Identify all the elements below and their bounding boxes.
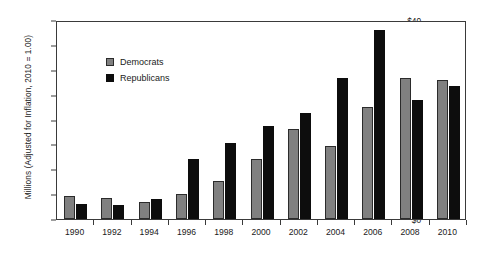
x-tick-mark	[466, 220, 467, 225]
x-tick-label: 1992	[102, 227, 121, 237]
x-tick-label: 2010	[438, 227, 457, 237]
x-tick-mark	[93, 220, 94, 225]
x-tick-mark	[429, 220, 430, 225]
bar-democrats-1996	[176, 194, 187, 219]
bar-republicans-2008	[412, 100, 423, 219]
bar-democrats-2004	[325, 146, 336, 219]
x-tick-label: 1994	[140, 227, 159, 237]
bar-democrats-1998	[213, 181, 224, 219]
bar-republicans-1992	[113, 205, 124, 219]
x-tick-mark	[168, 220, 169, 225]
bar-democrats-1994	[139, 202, 150, 219]
chart-legend: Democrats Republicans	[106, 55, 170, 87]
legend-item-republicans: Republicans	[106, 71, 170, 85]
plot-area	[56, 21, 466, 220]
x-tick-mark	[317, 220, 318, 225]
bar-democrats-1990	[64, 196, 75, 219]
x-tick-label: 2006	[363, 227, 382, 237]
y-axis-title: Millions (Adjusted for Inflation, 2010 =…	[23, 17, 33, 217]
bar-democrats-1992	[101, 198, 112, 219]
bar-democrats-2002	[288, 129, 299, 219]
bar-republicans-1994	[151, 199, 162, 219]
bar-republicans-1990	[76, 204, 87, 219]
bar-republicans-2000	[263, 126, 274, 219]
x-tick-mark	[280, 220, 281, 225]
bar-republicans-1998	[225, 143, 236, 219]
legend-item-democrats: Democrats	[106, 55, 170, 69]
x-tick-label: 2004	[326, 227, 345, 237]
x-tick-mark	[354, 220, 355, 225]
x-tick-label: 1996	[177, 227, 196, 237]
gray-square-icon	[106, 58, 114, 66]
bar-republicans-2010	[449, 86, 460, 219]
x-tick-label: 2000	[251, 227, 270, 237]
bar-republicans-1996	[188, 159, 199, 219]
x-tick-mark	[205, 220, 206, 225]
x-tick-label: 1998	[214, 227, 233, 237]
bar-republicans-2002	[300, 113, 311, 219]
x-tick-mark	[391, 220, 392, 225]
bar-republicans-2004	[337, 78, 348, 219]
bar-democrats-2008	[400, 78, 411, 219]
black-square-icon	[106, 74, 114, 82]
bar-democrats-2010	[437, 80, 448, 219]
legend-label-republicans: Republicans	[120, 73, 170, 83]
bar-republicans-2006	[374, 30, 385, 219]
x-tick-mark	[242, 220, 243, 225]
x-tick-mark	[131, 220, 132, 225]
bar-democrats-2006	[362, 107, 373, 219]
x-tick-label: 2002	[289, 227, 308, 237]
x-tick-label: 2008	[401, 227, 420, 237]
x-tick-label: 1990	[65, 227, 84, 237]
bar-democrats-2000	[251, 159, 262, 219]
bar-chart: Millions (Adjusted for Inflation, 2010 =…	[0, 0, 483, 256]
legend-label-democrats: Democrats	[120, 57, 164, 67]
